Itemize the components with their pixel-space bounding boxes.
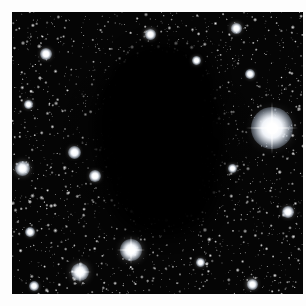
bright-star-left-lower-core	[29, 231, 32, 234]
bright-star-top-right-core	[234, 26, 238, 30]
bright-star-upper-mid	[192, 56, 201, 65]
bright-star-right-upper	[245, 69, 255, 79]
bright-star-right-spike-horizontal	[246, 127, 299, 128]
bright-star-lower-center-spike-vertical	[130, 236, 131, 264]
bright-star-upper-mid-core	[195, 59, 198, 62]
bright-star-right-lower	[282, 206, 294, 218]
bright-star-lower-right2	[196, 258, 205, 267]
bright-star-right	[251, 107, 293, 149]
bright-star-bottom-left	[29, 281, 39, 291]
bright-star-bottom-right	[247, 279, 258, 290]
bright-star-lower-left	[71, 263, 89, 281]
bright-star-left-mid	[15, 161, 30, 176]
bright-star-left-upper	[68, 146, 81, 159]
bright-star-mid-left-core	[93, 174, 97, 178]
bright-star-lower-center-core	[128, 247, 135, 254]
bright-star-bottom-left-core	[33, 285, 36, 288]
bright-star-left-top	[24, 100, 33, 109]
bright-star-left-lower	[25, 227, 35, 237]
bright-star-upper-left-core	[44, 52, 48, 56]
bright-star-lower-right2-core	[199, 261, 202, 264]
bright-star-right-lower-core	[286, 210, 290, 214]
bright-star-left-top-core	[27, 103, 30, 106]
bright-star-lower-left-spike-vertical	[79, 261, 80, 284]
bright-star-top-center-core	[148, 32, 152, 36]
bright-star-left-upper-core	[72, 150, 76, 154]
bright-star-lower-center-spike-horizontal	[117, 249, 145, 250]
bright-star-top-right	[231, 23, 242, 34]
bright-star-mid-left	[89, 170, 101, 182]
bright-star-mid-right-core	[231, 167, 234, 170]
bright-star-top-center	[145, 29, 156, 40]
bright-star-upper-left	[40, 48, 52, 60]
bright-star-right-spike-vertical	[271, 102, 272, 155]
bright-star-lower-left-spike-horizontal	[69, 271, 92, 272]
bright-star-lower-center	[120, 239, 142, 261]
bright-star-mid-right	[228, 164, 237, 173]
astronomy-image-page	[0, 0, 306, 306]
bright-star-left-mid-core	[20, 166, 25, 171]
bright-star-right-upper-core	[249, 73, 252, 76]
bright-stars-layer	[12, 12, 303, 294]
bright-star-lower-left-core	[77, 269, 83, 275]
star-field-frame	[12, 12, 303, 294]
bright-star-bottom-right-core	[250, 282, 254, 286]
bright-star-right-core	[267, 123, 278, 134]
